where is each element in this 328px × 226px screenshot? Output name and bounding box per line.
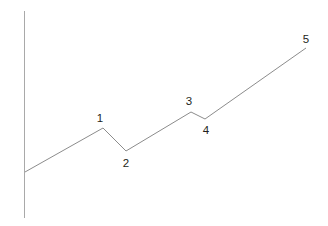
wave-diagram-canvas: 1 2 3 4 5: [0, 0, 328, 226]
wave-point-label-1: 1: [97, 112, 103, 124]
wave-point-label-3: 3: [186, 95, 192, 107]
wave-point-label-4: 4: [203, 124, 209, 136]
wave-chart-svg: [0, 0, 328, 226]
wave-point-label-2: 2: [123, 157, 129, 169]
wave-point-label-5: 5: [303, 33, 309, 45]
wave-polyline: [25, 48, 306, 172]
